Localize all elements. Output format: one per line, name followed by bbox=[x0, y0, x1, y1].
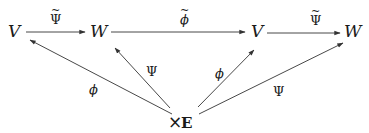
label-psi-e-to-w-left: Ψ bbox=[146, 64, 157, 79]
label-psi-tilde-right: Ψ bbox=[310, 13, 321, 28]
node-w-left: W bbox=[90, 21, 109, 41]
label-phi-e-to-v-right: ϕ bbox=[215, 66, 224, 81]
label-psi-tilde-left: Ψ bbox=[50, 12, 61, 27]
node-w-right: W bbox=[344, 21, 363, 41]
label-psi-e-to-w-right: Ψ bbox=[273, 84, 284, 99]
label-phi-e-to-v-left: ϕ bbox=[89, 82, 98, 97]
node-v-right: V bbox=[251, 21, 265, 41]
node-v-left: V bbox=[8, 21, 22, 41]
node-e: E bbox=[181, 114, 192, 132]
label-phi-tilde-middle: ϕ bbox=[180, 12, 189, 27]
commutative-diagram: V W V W × E ~ Ψ ~ ϕ ~ Ψ ϕ Ψ ϕ Ψ bbox=[0, 0, 369, 133]
arrow-e-to-v-right bbox=[198, 50, 254, 107]
